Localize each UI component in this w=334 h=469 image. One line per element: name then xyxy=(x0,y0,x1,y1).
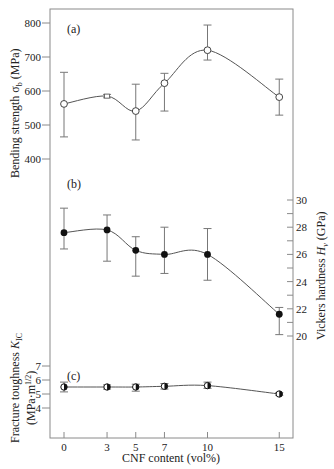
svg-text:600: 600 xyxy=(25,85,42,97)
svg-text:6: 6 xyxy=(36,374,42,386)
y-tick-b: 20 xyxy=(287,330,308,342)
y-tick-a: 500 xyxy=(25,119,51,131)
x-tick: 7 xyxy=(162,432,168,453)
data-point-c xyxy=(132,384,140,391)
fit-curve-a xyxy=(64,50,279,111)
svg-text:15: 15 xyxy=(274,441,286,453)
y-tick-b: 28 xyxy=(287,221,308,233)
fit-curve-b xyxy=(64,229,279,314)
data-point-c xyxy=(60,382,68,392)
svg-text:500: 500 xyxy=(25,119,42,131)
y-tick-a: 800 xyxy=(25,17,51,29)
y-tick-a: 400 xyxy=(25,153,51,165)
data-point-b xyxy=(103,215,111,261)
plot-frame xyxy=(50,9,293,438)
data-point-a xyxy=(160,73,168,111)
x-tick: 10 xyxy=(202,432,214,453)
y-tick-a: 700 xyxy=(25,51,51,63)
data-point-c xyxy=(103,384,111,390)
y-tick-c: 7 xyxy=(36,360,51,372)
svg-text:26: 26 xyxy=(296,248,308,260)
chart-figure: 035710154005006007008002022242628304567 … xyxy=(0,0,334,469)
fit-curve-c xyxy=(64,385,279,394)
y-axis-label-bending-strength: Bending strength σb (MPa) xyxy=(8,49,24,178)
svg-text:22: 22 xyxy=(296,303,307,315)
data-points-layer xyxy=(60,25,283,397)
panel-label-b: (b) xyxy=(67,177,81,191)
data-point-b xyxy=(204,229,212,281)
svg-text:30: 30 xyxy=(296,194,308,206)
y-tick-a: 600 xyxy=(25,85,51,97)
curves-layer xyxy=(64,50,279,394)
data-point-a xyxy=(60,72,68,137)
svg-text:0: 0 xyxy=(61,441,67,453)
x-tick: 0 xyxy=(61,432,67,453)
svg-text:700: 700 xyxy=(25,51,42,63)
svg-text:800: 800 xyxy=(25,17,42,29)
x-tick: 3 xyxy=(104,432,110,453)
data-point-c xyxy=(204,382,212,389)
y-tick-b: 22 xyxy=(287,303,307,315)
svg-text:28: 28 xyxy=(296,221,308,233)
y-tick-b: 30 xyxy=(287,194,308,206)
data-point-c xyxy=(275,391,283,397)
y-tick-b: 24 xyxy=(287,276,308,288)
data-point-a xyxy=(103,94,111,98)
data-point-c xyxy=(160,383,168,389)
svg-text:20: 20 xyxy=(296,330,308,342)
x-tick: 5 xyxy=(133,432,139,453)
svg-text:7: 7 xyxy=(36,360,42,372)
y-tick-c: 6 xyxy=(36,374,51,386)
y-tick-b: 26 xyxy=(287,248,308,260)
x-tick: 15 xyxy=(274,432,286,453)
data-point-a xyxy=(275,79,283,115)
svg-text:3: 3 xyxy=(104,441,110,453)
y-axis-label-vickers-hardness: Vickers hardness Hv (GPa) xyxy=(314,212,330,341)
panel-label-c: (c) xyxy=(67,369,80,383)
data-point-b xyxy=(132,237,140,276)
svg-text:400: 400 xyxy=(25,153,42,165)
x-axis-label: CNF content (vol%) xyxy=(122,451,220,465)
panel-label-a: (a) xyxy=(67,22,80,36)
data-point-a xyxy=(204,25,212,60)
data-point-b xyxy=(60,208,68,249)
data-point-b xyxy=(160,227,168,273)
y-axis-label-fracture-toughness: Fracture toughness KIC xyxy=(8,333,24,443)
data-point-a xyxy=(132,84,140,140)
svg-text:24: 24 xyxy=(296,276,308,288)
